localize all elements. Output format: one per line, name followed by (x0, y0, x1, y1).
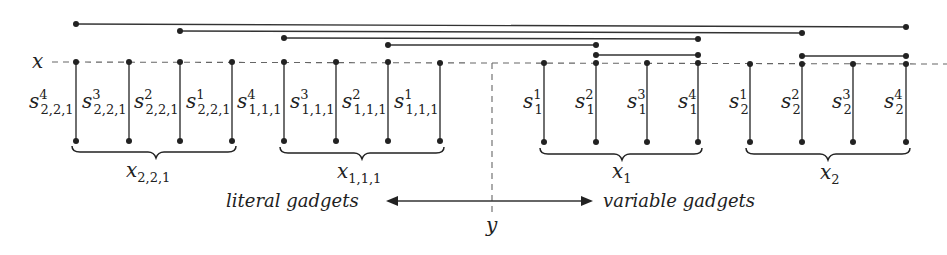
segment-label: s32 (832, 87, 852, 117)
literal-gadgets-label: literal gadgets (226, 190, 359, 211)
segment-label: s22 (781, 87, 801, 117)
segment (281, 59, 287, 144)
variable-segment-labels: s11 s21 s31 s41 s12 s22 s32 s42 (523, 87, 904, 117)
node (903, 53, 909, 59)
node (593, 42, 599, 48)
variable-segments (541, 60, 909, 145)
brace-x2 (746, 148, 910, 160)
segment-label: s12 (729, 87, 749, 117)
brace-x221 (72, 146, 236, 158)
segment (73, 59, 79, 144)
x-dashed-line (52, 62, 947, 64)
braces (72, 146, 910, 160)
segment-label: s32,2,1 (82, 87, 127, 117)
segment-label: s42,2,1 (29, 87, 74, 117)
node (799, 30, 805, 36)
segment-label: s31,1,1 (290, 87, 335, 117)
segment-label: s42 (884, 87, 904, 117)
y-axis-label: y (485, 213, 498, 237)
node (799, 53, 805, 59)
segment-label: s41,1,1 (237, 87, 282, 117)
segment-label: s21,1,1 (342, 87, 387, 117)
gadget-label-x2: x2 (820, 160, 840, 187)
connection-line-3 (284, 38, 698, 39)
gadget-label-x111: x1,1,1 (337, 159, 381, 186)
node (695, 52, 701, 58)
connection-line-2 (180, 31, 802, 33)
segment-label: s21 (575, 87, 595, 117)
node (177, 28, 183, 34)
gadget-diagram: x y s42,2,1 s32,2,1 s22,2,1 s12,2,1 s41,… (0, 0, 947, 255)
node (903, 24, 909, 30)
segment (126, 59, 132, 144)
node (695, 36, 701, 42)
arrow-right-head-icon (581, 196, 593, 206)
segment-label: s11 (523, 87, 543, 117)
gadget-label-x221: x2,2,1 (126, 158, 170, 185)
segment-label: s41 (678, 87, 698, 117)
segment-label: s12,2,1 (186, 87, 231, 117)
node (73, 21, 79, 27)
x-axis-label: x (32, 49, 43, 73)
node (593, 52, 599, 58)
segment-label: s31 (627, 87, 647, 117)
segment (903, 61, 909, 145)
connection-lines (73, 21, 909, 59)
segment-label: s22,2,1 (134, 87, 179, 117)
node (385, 42, 391, 48)
segment-label: s11,1,1 (394, 87, 439, 117)
variable-gadgets-label: variable gadgets (603, 190, 755, 211)
brace-x111 (280, 147, 444, 159)
double-arrow (386, 196, 593, 206)
arrow-left-head-icon (386, 196, 398, 206)
node (281, 35, 287, 41)
literal-segment-labels: s42,2,1 s32,2,1 s22,2,1 s12,2,1 s41,1,1 … (29, 87, 439, 117)
gadget-label-x1: x1 (612, 159, 632, 186)
connection-line-1 (76, 24, 906, 27)
